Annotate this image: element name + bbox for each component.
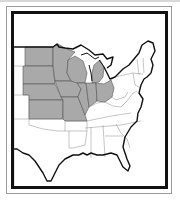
top-edge <box>0 0 180 2</box>
midwest-region <box>23 44 114 121</box>
state-ohio <box>96 80 114 102</box>
state-north-dakota <box>25 47 53 66</box>
state-south-dakota <box>23 66 55 84</box>
map-frame <box>11 11 168 189</box>
state-wisconsin <box>67 56 87 83</box>
state-kansas <box>29 100 63 119</box>
us-map <box>14 14 165 186</box>
